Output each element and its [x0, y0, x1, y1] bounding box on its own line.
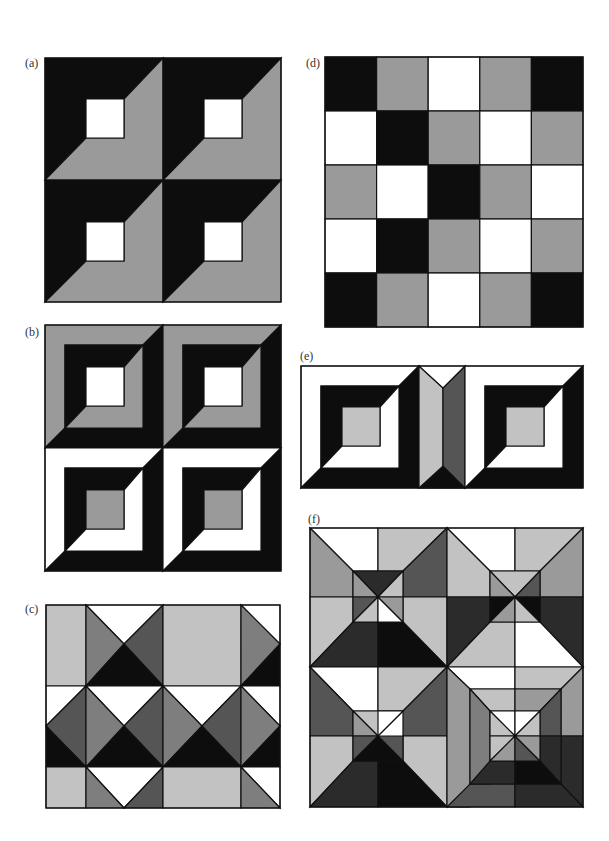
quilt-patch	[204, 367, 242, 406]
grid-cell	[480, 165, 532, 219]
grid-cell	[480, 219, 532, 273]
grid-cell	[531, 219, 583, 273]
quilt-patch	[204, 99, 242, 138]
grid-cell	[480, 57, 532, 111]
panel-label-d: (d)	[306, 57, 320, 69]
quilt-patch	[342, 407, 380, 446]
quilt-patch	[46, 605, 86, 686]
grid-cell	[428, 165, 480, 219]
grid-cell	[325, 165, 377, 219]
grid-cell	[428, 273, 480, 327]
quilt-patch	[204, 490, 242, 529]
grid-cell	[531, 57, 583, 111]
quilt-patch	[86, 99, 124, 138]
grid-cell	[377, 219, 429, 273]
grid-cell	[480, 111, 532, 165]
panel-label-c: (c)	[25, 603, 38, 615]
quilt-patch	[163, 767, 241, 808]
panel-d-quilt	[325, 57, 583, 327]
quilt-patch	[46, 767, 86, 808]
panel-f-quilt	[310, 528, 583, 807]
panel-e-quilt	[301, 366, 583, 488]
quilt-patch	[163, 605, 241, 686]
quilt-patch	[506, 407, 544, 446]
panel-label-f: (f)	[308, 513, 320, 525]
grid-cell	[325, 273, 377, 327]
grid-cell	[428, 57, 480, 111]
grid-cell	[531, 165, 583, 219]
quilt-patch	[86, 490, 124, 529]
grid-cell	[480, 273, 532, 327]
quilt-patch	[378, 711, 403, 736]
grid-cell	[325, 219, 377, 273]
panel-b-quilt	[45, 325, 281, 571]
grid-cell	[377, 111, 429, 165]
grid-cell	[531, 111, 583, 165]
panel-a-quilt	[45, 58, 281, 302]
panel-label-b: (b)	[25, 326, 39, 338]
quilt-patch	[86, 222, 124, 261]
panel-c-quilt	[46, 605, 280, 808]
panel-label-a: (a)	[25, 57, 38, 69]
quilt-patch	[447, 667, 470, 807]
quilt-patch	[204, 222, 242, 261]
panel-label-e: (e)	[300, 350, 313, 362]
grid-cell	[377, 165, 429, 219]
grid-cell	[428, 111, 480, 165]
grid-cell	[377, 57, 429, 111]
grid-cell	[325, 111, 377, 165]
grid-cell	[377, 273, 429, 327]
quilt-patch	[86, 367, 124, 406]
grid-cell	[325, 57, 377, 111]
grid-cell	[531, 273, 583, 327]
grid-cell	[428, 219, 480, 273]
